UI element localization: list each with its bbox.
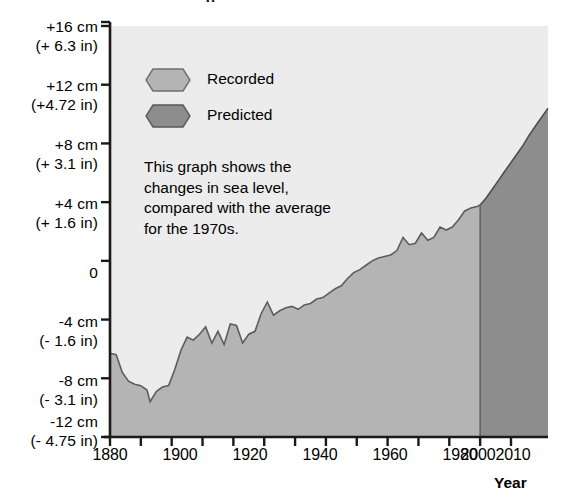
y-tick-label-5: -4 cm (- 1.6 in) — [39, 312, 98, 350]
y-tick-label-3-in: (+ 1.6 in) — [35, 213, 98, 232]
y-tick-label-1-cm: +12 cm — [31, 76, 98, 95]
y-tick-label-7-cm: -12 cm — [31, 412, 98, 431]
y-tick-label-2: +8 cm (+ 3.1 in) — [35, 135, 98, 173]
x-tick-label-1900: 1900 — [146, 446, 214, 464]
y-tick-label-3: +4 cm (+ 1.6 in) — [35, 194, 98, 232]
y-tick-label-6-in: (- 3.1 in) — [39, 390, 98, 409]
y-tick-label-0: +16 cm (+ 6.3 in) — [35, 17, 98, 55]
legend-swatch-recorded-icon — [145, 68, 191, 92]
y-tick-label-7: -12 cm (- 4.75 in) — [31, 412, 98, 450]
x-axis-title: Year — [494, 474, 527, 492]
x-tick-label-1960: 1960 — [356, 446, 424, 464]
x-tick-label-1920: 1920 — [216, 446, 284, 464]
y-tick-label-6-cm: -8 cm — [39, 371, 98, 390]
y-tick-label-1-in: (+4.72 in) — [31, 95, 98, 114]
y-tick-label-2-in: (+ 3.1 in) — [35, 154, 98, 173]
y-tick-label-1: +12 cm (+4.72 in) — [31, 76, 98, 114]
sea-level-chart-figure: g +16 cm (+ 6.3 in) +12 cm (+4.72 in) +8… — [0, 0, 564, 497]
legend-swatch-predicted-icon — [145, 104, 191, 128]
y-tick-label-4-cm: 0 — [89, 263, 98, 282]
y-tick-label-5-cm: -4 cm — [39, 312, 98, 331]
y-tick-label-3-cm: +4 cm — [35, 194, 98, 213]
y-tick-label-6: -8 cm (- 3.1 in) — [39, 371, 98, 409]
x-tick-label-2010: 2010 — [479, 446, 547, 464]
legend-label-predicted: Predicted — [207, 106, 272, 124]
x-tick-label-1880: 1880 — [76, 446, 144, 464]
legend-label-recorded: Recorded — [207, 70, 274, 88]
y-tick-label-5-in: (- 1.6 in) — [39, 331, 98, 350]
y-tick-label-2-cm: +8 cm — [35, 135, 98, 154]
y-tick-label-4: 0 — [89, 263, 98, 282]
y-tick-label-0-cm: +16 cm — [35, 17, 98, 36]
x-tick-label-1940: 1940 — [286, 446, 354, 464]
chart-annotation-text: This graph shows the changes in sea leve… — [144, 157, 404, 239]
y-tick-label-0-in: (+ 6.3 in) — [35, 36, 98, 55]
